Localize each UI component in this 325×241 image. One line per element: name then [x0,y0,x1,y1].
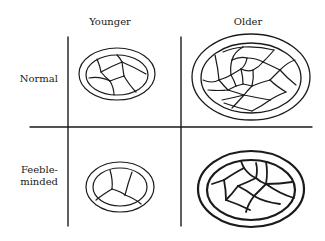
oval-feeble-minded-younger [86,162,154,212]
oval-normal-older [192,34,310,120]
oval-normal-younger [79,48,155,100]
grid-and-ovals [0,0,325,241]
oval-feeble-minded-older [198,151,304,227]
